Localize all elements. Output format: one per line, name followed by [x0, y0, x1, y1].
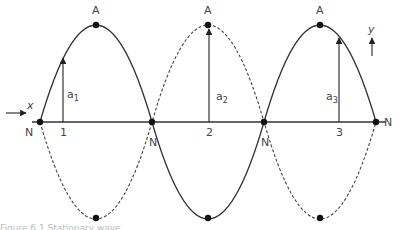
antinode-label: A [316, 4, 324, 17]
node-label: N [149, 136, 157, 149]
node-label: N [25, 126, 33, 139]
node-dot [261, 119, 267, 125]
antinode-label: A [204, 4, 212, 17]
node-dot [149, 119, 155, 125]
antinode-dot-top [93, 22, 99, 28]
point-label: 1 [60, 126, 67, 139]
figure-caption: Figure 6.1 Stationary wave [0, 223, 121, 230]
antinode-dot-top [317, 22, 323, 28]
antinode-dot-bottom [205, 215, 211, 221]
antinode-dot-top [205, 22, 211, 28]
antinode-dot-bottom [93, 215, 99, 221]
node-dot [373, 119, 379, 125]
node-label: N [384, 116, 392, 129]
node-dot [37, 119, 43, 125]
amplitude-label-2: a2 [216, 90, 228, 105]
amplitude-label-1: a1 [67, 88, 79, 103]
antinode-label: A [92, 4, 100, 17]
amplitude-label-3: a3 [326, 90, 338, 105]
x-axis-label: x [26, 99, 34, 112]
y-axis-label: y [367, 23, 375, 36]
point-label: 3 [336, 126, 343, 139]
antinode-dot-bottom [317, 215, 323, 221]
standing-wave-diagram: x y A A A N N N N 1 2 3 a1 a2 a3 [0, 0, 399, 230]
node-label: N [261, 136, 269, 149]
point-label: 2 [206, 126, 213, 139]
